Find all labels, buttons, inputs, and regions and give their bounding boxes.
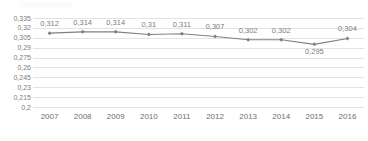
- plot-area: 0,3120,3140,3140,310,3110,3070,3020,3020…: [33, 18, 364, 107]
- y-tick-label: 0,26: [0, 64, 31, 71]
- data-point-marker: [279, 38, 283, 42]
- x-tick-label: 2016: [339, 112, 357, 121]
- gridline: [33, 107, 364, 108]
- data-point-marker: [48, 31, 52, 35]
- data-point-marker: [180, 32, 184, 36]
- y-tick-label: 0,29: [0, 44, 31, 51]
- data-point-marker: [114, 30, 118, 34]
- data-point-marker: [147, 32, 151, 36]
- data-point-marker: [312, 42, 316, 46]
- x-tick-label: 2007: [41, 112, 59, 121]
- x-tick-label: 2010: [140, 112, 158, 121]
- series-line-group: [33, 18, 364, 107]
- cropped-title-artifact: [21, 2, 73, 8]
- y-tick-label: 0,32: [0, 24, 31, 31]
- y-tick-label: 0,245: [0, 74, 31, 81]
- data-point-label: 0,304: [338, 25, 357, 33]
- line-chart: 0,3350,320,3050,290,2750,260,2450,230,21…: [0, 0, 368, 141]
- y-tick-label: 0,275: [0, 54, 31, 61]
- data-point-label: 0,307: [206, 23, 225, 31]
- x-tick-label: 2014: [272, 112, 290, 121]
- y-tick-label: 0,2: [0, 104, 31, 111]
- x-axis-tick-labels: 2007200820092010201120122013201420152016: [33, 112, 364, 126]
- data-point-label: 0,302: [272, 27, 291, 35]
- data-point-marker: [213, 34, 217, 38]
- data-point-label: 0,312: [40, 20, 59, 28]
- y-tick-label: 0,305: [0, 34, 31, 41]
- data-point-marker: [81, 30, 85, 34]
- x-tick-label: 2008: [74, 112, 92, 121]
- data-point-marker: [246, 38, 250, 42]
- data-point-marker: [345, 36, 349, 40]
- x-tick-label: 2009: [107, 112, 125, 121]
- y-tick-label: 0,335: [0, 15, 31, 22]
- data-point-label: 0,311: [173, 21, 191, 29]
- data-point-label: 0,302: [239, 27, 258, 35]
- data-point-label: 0,295: [305, 48, 324, 56]
- series-line: [50, 32, 348, 45]
- x-tick-label: 2015: [305, 112, 323, 121]
- data-point-label: 0,314: [106, 19, 125, 27]
- y-axis-tick-labels: 0,3350,320,3050,290,2750,260,2450,230,21…: [0, 18, 31, 107]
- y-tick-label: 0,23: [0, 84, 31, 91]
- x-tick-label: 2011: [173, 112, 190, 121]
- x-tick-label: 2012: [206, 112, 224, 121]
- y-tick-label: 0,215: [0, 94, 31, 101]
- data-point-label: 0,31: [142, 21, 157, 29]
- x-tick-label: 2013: [239, 112, 257, 121]
- data-point-label: 0,314: [73, 19, 92, 27]
